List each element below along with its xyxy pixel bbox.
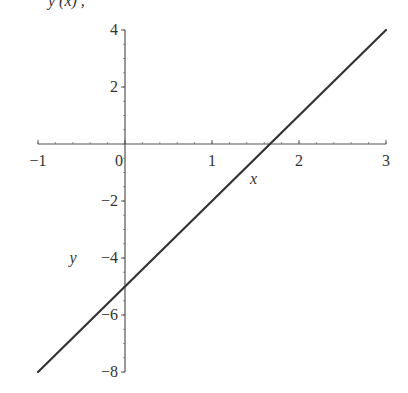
y-tick-label: −2: [101, 192, 118, 209]
x-tick-label: 0: [115, 152, 123, 169]
line-chart: y (x) , −10123−8−6−4−224xy: [0, 0, 408, 393]
y-axis-label: y: [67, 249, 77, 267]
y-tick-label: −4: [101, 249, 118, 266]
x-axis-label: x: [249, 170, 257, 187]
y-tick-label: 2: [110, 78, 118, 95]
cropped-title-fragment: y (x) ,: [46, 0, 85, 10]
x-tick-label: 2: [295, 152, 303, 169]
y-tick-label: 4: [110, 21, 118, 38]
x-tick-label: −1: [29, 152, 46, 169]
x-tick-label: 1: [208, 152, 216, 169]
series-line: [38, 30, 386, 372]
data-series: [38, 30, 386, 372]
y-tick-label: −8: [101, 363, 118, 380]
x-tick-label: 3: [382, 152, 390, 169]
